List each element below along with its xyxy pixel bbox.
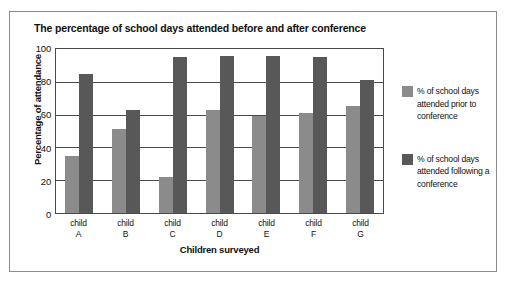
- x-axis-tick-line1: child: [352, 218, 368, 228]
- bar-after: [126, 110, 140, 213]
- x-axis-tick-line2: B: [102, 229, 149, 240]
- legend-entry: % of school days attended following a co…: [402, 153, 498, 191]
- chart-figure: The percentage of school days attended b…: [9, 11, 497, 272]
- bar-after: [220, 56, 234, 213]
- bar-prior: [159, 177, 173, 213]
- x-axis-tick: childD: [196, 218, 243, 240]
- y-axis-tick: 100: [24, 43, 51, 54]
- bar-group: [149, 49, 196, 213]
- x-axis-tick-line2: F: [290, 229, 337, 240]
- legend-entry: % of school days attended prior to confe…: [402, 85, 498, 123]
- y-axis-tick: 0: [24, 209, 51, 220]
- x-axis-tick-line2: C: [149, 229, 196, 240]
- x-axis-tick-line1: child: [164, 218, 180, 228]
- x-axis-tick-line1: child: [117, 218, 133, 228]
- x-axis-tick-line1: child: [211, 218, 227, 228]
- bar-group: [103, 49, 150, 213]
- bar-prior: [346, 106, 360, 213]
- x-axis-tick: childG: [337, 218, 384, 240]
- x-axis-tick-line2: E: [243, 229, 290, 240]
- y-axis-tick-labels: 020406080100: [24, 48, 51, 214]
- bar-prior: [252, 116, 266, 213]
- bar-group: [243, 49, 290, 213]
- bar-prior: [112, 129, 126, 213]
- y-axis-tick: 40: [24, 142, 51, 153]
- bar-after: [173, 57, 187, 213]
- legend-label: % of school days attended prior to confe…: [417, 85, 498, 123]
- x-axis-tick-line1: child: [70, 218, 86, 228]
- x-axis-tick-line2: D: [196, 229, 243, 240]
- bar-after: [79, 74, 93, 213]
- x-axis-tick-line2: G: [337, 229, 384, 240]
- legend-label: % of school days attended following a co…: [417, 153, 498, 191]
- y-axis-tick: 80: [24, 76, 51, 87]
- legend-swatch: [402, 86, 413, 97]
- bar-group: [290, 49, 337, 213]
- x-axis-tick: childB: [102, 218, 149, 240]
- x-axis-tick: childC: [149, 218, 196, 240]
- bar-group: [336, 49, 383, 213]
- bar-prior: [299, 113, 313, 213]
- bar-prior: [206, 110, 220, 213]
- bar-after: [266, 56, 280, 213]
- y-axis-tick: 60: [24, 109, 51, 120]
- chart-legend: % of school days attended prior to confe…: [402, 85, 498, 220]
- x-axis-tick: childA: [55, 218, 102, 240]
- legend-swatch: [402, 154, 413, 165]
- x-axis-tick-line1: child: [258, 218, 274, 228]
- bar-group: [196, 49, 243, 213]
- x-axis-tick-line2: A: [55, 229, 102, 240]
- plot-area-wrapper: Percentage of attendance 020406080100 ch…: [10, 12, 390, 273]
- y-axis-tick: 20: [24, 175, 51, 186]
- x-axis-label: Children surveyed: [55, 244, 384, 255]
- bar-prior: [65, 156, 79, 213]
- x-axis-tick: childE: [243, 218, 290, 240]
- x-axis-tick-labels: childAchildBchildCchildDchildEchildFchil…: [55, 218, 384, 240]
- bar-groups: [56, 49, 383, 213]
- bar-after: [360, 80, 374, 213]
- bar-group: [56, 49, 103, 213]
- plot-area: [55, 48, 384, 214]
- bar-after: [313, 57, 327, 213]
- x-axis-tick-line1: child: [305, 218, 321, 228]
- x-axis-tick: childF: [290, 218, 337, 240]
